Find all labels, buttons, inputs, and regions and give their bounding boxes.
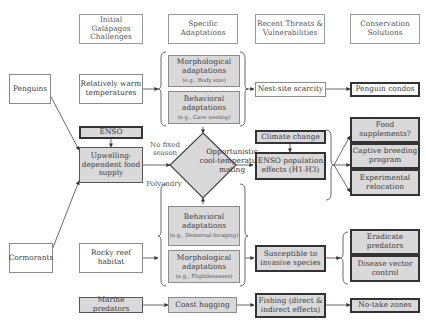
eradicate-predators-box: Eradicate predators [350, 229, 420, 255]
rocky-reef-box: Rocky reef habitat [79, 243, 143, 273]
polyandry-label: Polyandry [146, 180, 182, 188]
captive-breeding-box: Captive breeding program [350, 143, 420, 169]
header-conservation-solutions: Conservation Solutions [350, 14, 420, 44]
header-label: Conservation Solutions [351, 20, 419, 38]
invasive-species-label: Susceptible to invasive species [257, 250, 324, 268]
enso-population-effects-box: ENSO population effects (H1-H3) [255, 152, 326, 180]
climate-change-box: Climate change [255, 130, 326, 144]
behavioral-title: Behavioral adaptations [169, 213, 239, 231]
behavioral-title: Behavioral adaptations [169, 95, 239, 113]
penguin-morphological-box: Morphological adaptations (e.g., Body si… [168, 55, 240, 87]
header-label: Recent Threats & Vulnerabilities [256, 20, 324, 38]
experimental-relocation-box: Experimental relocation [350, 169, 420, 196]
upwelling-food-box: Upwelling-dependent food supply [79, 147, 143, 183]
eradicate-predators-label: Eradicate predators [352, 233, 418, 251]
food-supplements-label: Food supplements? [352, 121, 418, 139]
cormorant-morphological-box: Morphological adaptations (e.g., Flightl… [168, 250, 240, 283]
fishing-label: Fishing (direct & indirect effects) [257, 297, 324, 315]
nest-site-label: Nest-site scarcity [258, 85, 323, 94]
nest-site-scarcity-box: Nest-site scarcity [255, 82, 326, 97]
food-supplements-box: Food supplements? [350, 117, 420, 143]
penguin-behavioral-box: Behavioral adaptations (e.g., Cave nesti… [168, 91, 240, 124]
disease-vector-control-box: Disease vector control [350, 255, 420, 282]
enso-label: ENSO [100, 128, 123, 137]
coast-hugging-label: Coast hugging [175, 301, 229, 310]
penguin-condos-box: Penguin condos [350, 82, 420, 97]
warm-temperatures-label: Relatively warm temperatures [80, 80, 142, 98]
morphological-title: Morphological adaptations [169, 254, 239, 272]
morphological-title: Morphological adaptations [169, 58, 239, 76]
enso-effects-label: ENSO population effects (H1-H3) [257, 157, 324, 175]
climate-change-label: Climate change [261, 133, 320, 142]
header-label: Specific Adaptations [169, 20, 237, 38]
cormorants-box: Cormorants [9, 243, 53, 273]
marine-predators-box: Marine predators [79, 297, 143, 313]
fishing-box: Fishing (direct & indirect effects) [255, 293, 326, 318]
relocation-label: Experimental relocation [352, 174, 418, 192]
header-label: Initial Galápagos Challenges [80, 16, 142, 43]
morphological-example: (e.g., Flightlessness) [176, 273, 233, 279]
behavioral-example: (e.g., Demersal foraging) [170, 232, 239, 238]
enso-box: ENSO [79, 126, 143, 139]
upwelling-label: Upwelling-dependent food supply [80, 152, 142, 179]
header-initial-challenges: Initial Galápagos Challenges [79, 14, 143, 44]
coast-hugging-box: Coast hugging [168, 297, 237, 313]
disease-vector-label: Disease vector control [352, 260, 418, 278]
invasive-species-box: Susceptible to invasive species [255, 245, 326, 272]
penguin-condos-label: Penguin condos [355, 85, 414, 94]
header-recent-threats: Recent Threats & Vulnerabilities [255, 14, 325, 44]
morphological-example: (e.g., Body size) [182, 77, 226, 83]
cormorant-behavioral-box: Behavioral adaptations (e.g., Demersal f… [168, 206, 240, 246]
behavioral-example: (e.g., Cave nesting) [177, 114, 230, 120]
penguins-box: Penguins [9, 74, 51, 104]
no-fixed-season-label: No fixed season [150, 141, 180, 157]
captive-breeding-label: Captive breeding program [352, 147, 418, 165]
penguins-label: Penguins [13, 85, 47, 94]
warm-temperatures-box: Relatively warm temperatures [79, 74, 143, 104]
no-take-zones-label: No-take zones [358, 301, 411, 310]
header-specific-adaptations: Specific Adaptations [168, 14, 238, 44]
cormorants-label: Cormorants [9, 254, 54, 263]
rocky-reef-label: Rocky reef habitat [80, 249, 142, 267]
no-take-zones-box: No-take zones [350, 298, 420, 313]
marine-predators-label: Marine predators [80, 296, 142, 314]
